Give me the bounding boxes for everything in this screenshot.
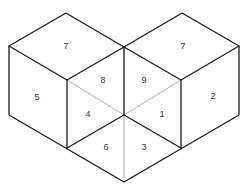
face-label-left-top: 7 — [63, 41, 68, 51]
face-label-bottom-right: 3 — [141, 142, 146, 152]
face-label-right-inner-upper: 9 — [141, 75, 146, 85]
face-label-bottom-left: 6 — [103, 142, 108, 152]
face-label-right-inner-lower: 1 — [159, 109, 164, 119]
face-label-right-side: 2 — [210, 91, 215, 101]
face-label-left-inner-upper: 8 — [100, 75, 105, 85]
face-label-right-top: 7 — [180, 41, 185, 51]
face-label-left-inner-lower: 4 — [85, 109, 90, 119]
face-labels: 7 5 8 4 7 2 9 1 6 3 — [34, 41, 215, 152]
two-cubes-diagram: 7 5 8 4 7 2 9 1 6 3 — [0, 0, 248, 195]
face-label-left-side: 5 — [34, 92, 39, 102]
